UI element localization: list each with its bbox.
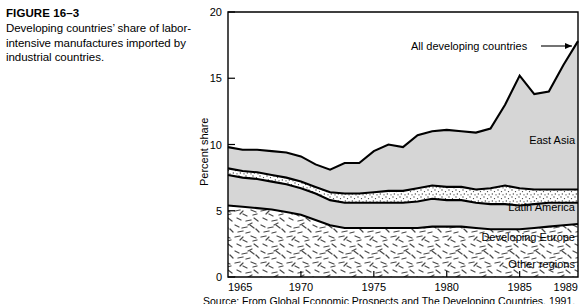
band-east-asia (228, 41, 578, 193)
callout-arrow-head (565, 43, 572, 49)
y-tick-label: 10 (210, 139, 222, 151)
figure-root: FIGURE 16–3 Developing countries’ share … (0, 0, 588, 304)
x-tick-label: 1970 (289, 281, 313, 293)
x-tick-label: 1975 (362, 281, 386, 293)
y-axis-title: Percent share (198, 118, 210, 186)
y-tick-label: 5 (216, 205, 222, 217)
x-tick-label: 1980 (435, 281, 459, 293)
y-tick-label: 20 (210, 6, 222, 18)
source-note: Source: From Global Economic Prospects a… (203, 295, 588, 304)
y-tick-label: 15 (210, 72, 222, 84)
x-tick-label: 1989 (554, 281, 578, 293)
x-tick-label: 1965 (228, 281, 252, 293)
annotation-all-developing-countries: All developing countries (411, 40, 528, 52)
annotation-other-regions: Other regions (508, 258, 575, 270)
y-tick-label: 0 (216, 271, 222, 283)
annotation-latin-america: Latin America (508, 201, 576, 213)
annotation-developing-europe: Developing Europe (481, 231, 575, 243)
x-tick-label: 1985 (507, 281, 531, 293)
chart-area: 05101520 196519701975198019851989 Percen… (0, 0, 588, 304)
annotation-east-asia: East Asia (529, 134, 576, 146)
stacked-area-chart: 05101520 196519701975198019851989 Percen… (0, 0, 588, 304)
